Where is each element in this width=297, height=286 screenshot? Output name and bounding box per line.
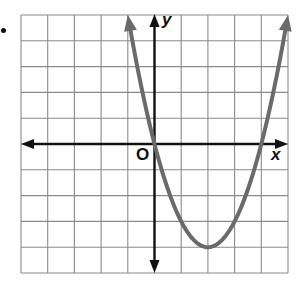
y-axis-label: y xyxy=(162,10,171,30)
origin-label: O xyxy=(136,145,149,165)
coordinate-plane xyxy=(0,0,297,286)
x-axis-label: x xyxy=(271,145,280,165)
